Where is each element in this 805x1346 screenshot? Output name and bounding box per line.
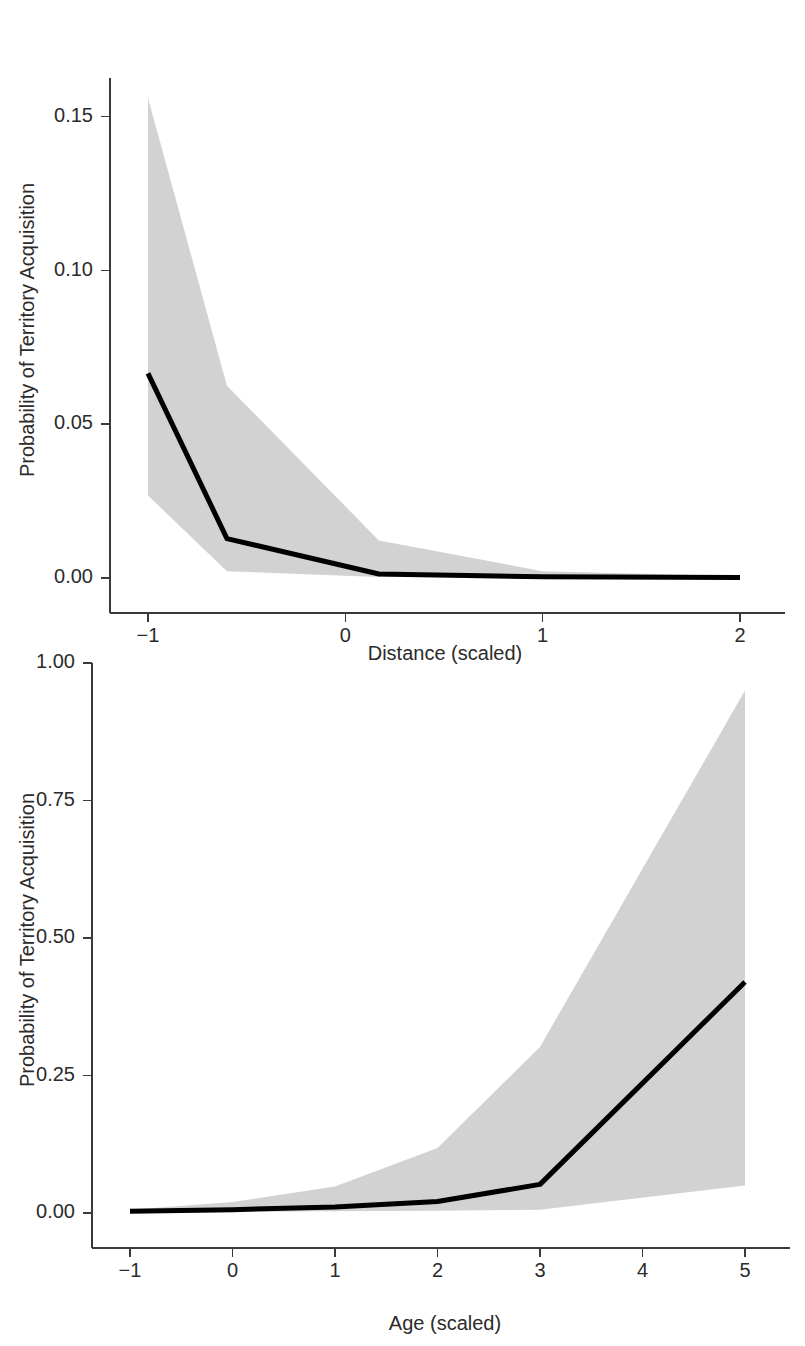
figure-panel-group: 0.000.050.100.15−1012 Probability of Ter… <box>0 0 805 1346</box>
y-tick-label: 0.15 <box>54 104 93 126</box>
y-tick-label: 1.00 <box>36 650 75 672</box>
x-tick-label: 5 <box>739 1259 750 1281</box>
x-tick-label: 2 <box>432 1259 443 1281</box>
x-tick-label: 4 <box>637 1259 648 1281</box>
y-tick-label: 0.50 <box>36 925 75 947</box>
x-axis-title: Age (scaled) <box>389 1312 501 1334</box>
distance-chart-svg: 0.000.050.100.15−1012 Probability of Ter… <box>0 0 805 673</box>
x-tick-label: 1 <box>329 1259 340 1281</box>
y-tick-label: 0.25 <box>36 1063 75 1085</box>
chart-panel-distance: 0.000.050.100.15−1012 Probability of Ter… <box>0 0 805 673</box>
y-axis-title: Probability of Territory Acquisition <box>16 793 38 1087</box>
y-tick-label: 0.05 <box>54 411 93 433</box>
y-tick-label: 0.75 <box>36 788 75 810</box>
x-tick-label: 0 <box>227 1259 238 1281</box>
y-tick-label: 0.00 <box>36 1200 75 1222</box>
confidence-ribbon <box>130 691 745 1213</box>
age-chart-svg: 0.000.250.500.751.00−1012345 Probability… <box>0 640 805 1346</box>
y-tick-label: 0.00 <box>54 565 93 587</box>
y-tick-label: 0.10 <box>54 258 93 280</box>
age-ribbon-group <box>130 691 745 1213</box>
x-tick-label: −1 <box>119 1259 142 1281</box>
confidence-ribbon <box>148 98 740 578</box>
y-axis-title: Probability of Territory Acquisition <box>16 183 38 477</box>
distance-ribbon-group <box>148 98 740 578</box>
x-tick-label: 3 <box>534 1259 545 1281</box>
chart-panel-age: 0.000.250.500.751.00−1012345 Probability… <box>0 640 805 1346</box>
